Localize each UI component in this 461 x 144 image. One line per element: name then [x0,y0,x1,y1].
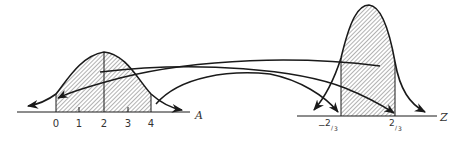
a-tick-label-1: 1 [76,118,82,129]
svg-text:3: 3 [334,125,338,132]
z-tick-label-lower: − 2 / 3 [318,118,338,132]
z-axis-label: Z [439,111,448,124]
svg-text:3: 3 [398,125,402,132]
svg-text:2: 2 [325,118,331,128]
left-plot: 0 1 2 3 4 A [17,52,203,129]
right-shaded-area [341,5,395,116]
a-tick-label-3: 3 [125,118,131,129]
a-tick-label-0: 0 [53,118,59,129]
distribution-transform-diagram: 0 1 2 3 4 A − 2 / 3 2 / 3 Z [0,0,461,144]
a-tick-label-2: 2 [101,118,107,129]
a-axis-label: A [194,109,203,122]
right-plot: − 2 / 3 2 / 3 Z [297,5,448,132]
arrow-a-to-z-lower [156,73,338,112]
z-tick-label-upper: 2 / 3 [389,118,402,132]
svg-text:2: 2 [389,118,395,128]
a-tick-label-4: 4 [148,118,154,129]
